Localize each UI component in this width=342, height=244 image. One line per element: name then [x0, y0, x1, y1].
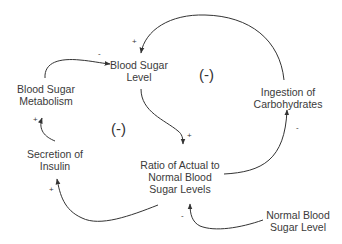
polarity-ingestion-to-bsl: + [132, 38, 137, 46]
node-label-line: Normal Blood [140, 171, 220, 183]
polarity-ratio-to-ingestion: - [296, 124, 299, 132]
link-metabolism-to-bsl [45, 60, 110, 78]
node-normal-blood-sugar-level: Normal Blood Sugar Level [264, 209, 332, 233]
node-blood-sugar-level: Blood Sugar Level [110, 59, 168, 83]
link-layer [0, 0, 342, 244]
node-label-line: Blood Sugar [16, 83, 76, 95]
polarity-normal-to-ratio: - [181, 212, 184, 220]
causal-loop-diagram: Blood Sugar Level Blood Sugar Metabolism… [0, 0, 342, 244]
polarity-metabolism-to-bsl: - [98, 50, 101, 58]
link-insulin-to-metabolism [41, 118, 55, 141]
polarity-ratio-to-insulin: + [49, 186, 54, 194]
node-secretion-of-insulin: Secretion of Insulin [26, 148, 84, 172]
link-ratio-to-ingestion [224, 110, 287, 174]
node-label-line: Carbohydrates [252, 98, 324, 110]
polarity-bsl-to-ratio: + [187, 132, 192, 140]
node-label-line: Ratio of Actual to [140, 159, 220, 171]
node-ingestion-of-carbohydrates: Ingestion of Carbohydrates [252, 86, 324, 110]
node-blood-sugar-metabolism: Blood Sugar Metabolism [16, 83, 76, 107]
node-label-line: Insulin [26, 160, 84, 172]
node-label-line: Sugar Level [264, 221, 332, 233]
polarity-insulin-to-metabolism: + [33, 116, 38, 124]
node-ratio-actual-to-normal: Ratio of Actual to Normal Blood Sugar Le… [140, 159, 220, 195]
node-label-line: Metabolism [16, 95, 76, 107]
link-bsl-to-ratio [141, 89, 183, 144]
loop-label-left: (-) [111, 120, 126, 137]
node-label-line: Normal Blood [264, 209, 332, 221]
node-label-line: Level [110, 71, 168, 83]
loop-label-right: (-) [199, 66, 214, 83]
node-label-line: Sugar Levels [140, 183, 220, 195]
link-normal-to-ratio [190, 204, 263, 229]
node-label-line: Ingestion of [252, 86, 324, 98]
node-label-line: Blood Sugar [110, 59, 168, 71]
node-label-line: Secretion of [26, 148, 84, 160]
